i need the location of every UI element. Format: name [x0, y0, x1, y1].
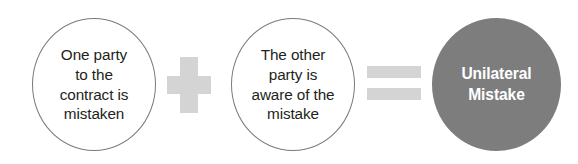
- equals-bottom-bar: [367, 88, 421, 100]
- equals-operator-icon: [367, 66, 421, 100]
- result-circle-label: Unilateral Mistake: [461, 64, 531, 105]
- equals-top-bar: [367, 66, 421, 78]
- condition-circle-other-party: The other party is aware of the mistake: [231, 18, 355, 151]
- plus-vertical-bar: [180, 57, 198, 113]
- condition-circle-one-party: One party to the contract is mistaken: [32, 18, 156, 151]
- condition-circle-one-party-label: One party to the contract is mistaken: [54, 45, 135, 125]
- condition-circle-other-party-label: The other party is aware of the mistake: [246, 45, 341, 125]
- plus-operator-icon: [167, 57, 211, 113]
- unilateral-mistake-diagram: One party to the contract is mistaken Th…: [0, 0, 578, 164]
- result-circle-unilateral-mistake: Unilateral Mistake: [432, 18, 561, 151]
